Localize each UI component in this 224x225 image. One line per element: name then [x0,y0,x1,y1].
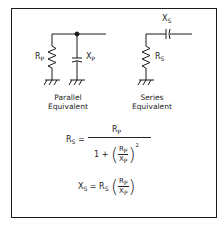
resistor-rp-icon [48,34,56,80]
capacitor-xp-icon [72,34,82,80]
parallel-circuit [44,32,106,85]
resistor-rs-icon [142,34,150,80]
equation-xs: XS = RS (RPXP) [78,176,136,197]
main-fraction-bar [88,137,151,138]
rs-label: RS [155,52,164,62]
xp-label: XP [86,52,95,62]
equation-rs-numerator: RP [112,125,121,135]
series-caption: Series Equivalent [126,93,178,111]
parallel-caption: Parallel Equivalent [42,93,94,111]
xs-label: XS [162,14,171,24]
rp-label: RP [35,52,44,62]
equation-rs-denominator: 1 + (RPXP)2 [94,142,139,165]
equation-rs-lhs: RS = [66,135,85,145]
ground-icon [44,80,60,85]
ground-icon [69,80,85,85]
capacitor-xs-icon [166,29,170,39]
ground-icon [138,80,154,85]
series-circuit [138,29,192,85]
